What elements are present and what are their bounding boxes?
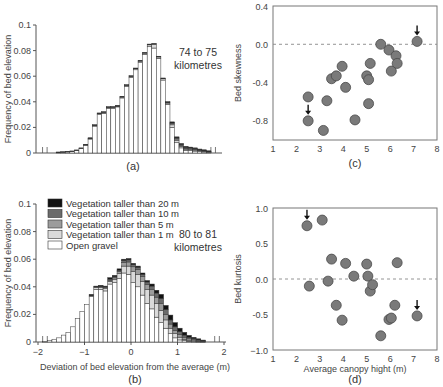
panel-caption: (d)	[348, 373, 361, 385]
histogram-bar-segment	[159, 299, 164, 304]
x-tick-label: 1	[175, 347, 180, 357]
histogram-bar-segment	[175, 137, 180, 138]
histogram-bar-segment	[43, 342, 48, 343]
histogram-bar-segment	[184, 146, 189, 147]
histogram-bar-segment	[131, 263, 136, 264]
histogram-bar-segment	[97, 115, 102, 153]
y-tick-label: -0.4	[252, 78, 268, 88]
arrow-head	[414, 306, 420, 310]
histogram-bar-segment	[117, 279, 122, 342]
data-point	[303, 92, 313, 102]
histogram-bar-segment	[179, 148, 184, 153]
arrow-down-icon	[414, 25, 420, 35]
histogram-bar-segment	[124, 86, 129, 153]
histogram-bar-segment	[136, 270, 141, 275]
legend-swatch	[48, 220, 62, 228]
histogram-bar-segment	[143, 52, 148, 53]
histogram-bar-segment	[98, 285, 103, 286]
data-point	[365, 58, 375, 68]
histogram-bar-segment	[202, 150, 207, 151]
y-tick-label: -0.8	[252, 116, 268, 126]
histogram-bar-segment	[131, 265, 136, 267]
histogram-bar-segment	[154, 303, 159, 317]
data-point	[368, 280, 378, 290]
histogram-bar-segment	[193, 151, 198, 153]
histogram-bar-segment	[111, 107, 116, 108]
histogram-bar-segment	[156, 56, 161, 57]
histogram-bar-segment	[89, 294, 94, 295]
arrow-head	[305, 111, 311, 115]
histogram-bar-segment	[84, 144, 89, 145]
histogram-bar-segment	[106, 107, 111, 108]
histogram-bar-segment	[111, 108, 116, 153]
histogram-bar-segment	[122, 259, 127, 260]
x-tick-label: 2	[294, 144, 299, 154]
data-point	[322, 96, 332, 106]
histogram-bar-segment	[175, 143, 180, 153]
histogram-bar-segment	[103, 286, 108, 287]
histogram-bar-segment	[115, 105, 120, 106]
histogram-bar-segment	[122, 263, 127, 266]
histogram-bar-segment	[98, 287, 103, 289]
histogram-bar-segment	[94, 286, 99, 287]
range-annotation: kilometres	[174, 241, 222, 253]
histogram-bar-segment	[170, 127, 175, 153]
histogram-bar-segment	[61, 335, 66, 342]
histogram-bar-segment	[178, 337, 183, 340]
x-tick-label: 2	[221, 347, 226, 357]
histogram-bar-segment	[136, 267, 141, 269]
y-tick-label: 0.06	[13, 254, 31, 264]
histogram-bar-segment	[112, 279, 117, 282]
histogram-bar-segment	[140, 273, 145, 274]
histogram-bar-segment	[196, 339, 201, 340]
histogram-bar-segment	[112, 283, 117, 342]
histogram-bar-segment	[126, 266, 131, 274]
y-tick-label: 0	[26, 148, 31, 158]
histogram-bar-segment	[145, 282, 150, 285]
histogram-bar-segment	[117, 274, 122, 279]
histogram-bar-segment	[126, 274, 131, 342]
x-tick-label: −1	[79, 347, 89, 357]
legend-swatch	[48, 199, 62, 207]
histogram-bar-segment	[173, 327, 178, 330]
scatter-panel-d: 1.00.50.0-0.5−1.012345678Bed kurtosisAve…	[233, 204, 440, 386]
data-point	[302, 221, 312, 231]
histogram-bar-segment	[98, 290, 103, 342]
data-point	[390, 300, 400, 310]
y-tick-label: -0.5	[252, 310, 268, 320]
histogram-bar-segment	[122, 261, 127, 263]
histogram-bar-segment	[84, 145, 89, 153]
y-tick-label: 0.4	[255, 2, 268, 12]
legend-swatch	[48, 241, 62, 249]
histogram-bar-segment	[143, 54, 148, 153]
histogram-bar-segment	[164, 310, 169, 315]
histogram-bar-segment	[93, 125, 98, 126]
histogram-bar-segment	[161, 78, 166, 79]
histogram-bar-segment	[124, 85, 129, 86]
y-tick-label: −1.0	[250, 346, 268, 356]
histogram-bar-segment	[126, 259, 131, 260]
panel-caption: (c)	[349, 157, 362, 169]
histogram-bar-segment	[187, 335, 192, 337]
histogram-bar-segment	[179, 144, 184, 145]
histogram-bar-segment	[164, 314, 169, 320]
data-point	[337, 61, 347, 71]
panel-caption: (a)	[126, 160, 139, 172]
arrow-down-icon	[414, 300, 420, 310]
histogram-bar-segment	[173, 338, 178, 342]
histogram-bar-segment	[70, 151, 75, 152]
histogram-bar-segment	[156, 58, 161, 153]
histogram-bar-segment	[154, 293, 159, 297]
x-tick-label: 8	[434, 144, 439, 154]
histogram-bar-segment	[52, 339, 57, 342]
data-point	[318, 125, 328, 135]
histogram-bar-segment	[178, 328, 183, 331]
histogram-bar-segment	[122, 266, 127, 273]
y-tick-label: 1.0	[255, 204, 268, 214]
arrow-down-icon	[305, 105, 311, 115]
histogram-bar-segment	[80, 312, 85, 342]
histogram-bar-segment	[79, 149, 84, 153]
x-tick-label: 3	[317, 144, 322, 154]
histogram-bar-segment	[57, 338, 62, 342]
histogram-bar-segment	[178, 340, 183, 342]
